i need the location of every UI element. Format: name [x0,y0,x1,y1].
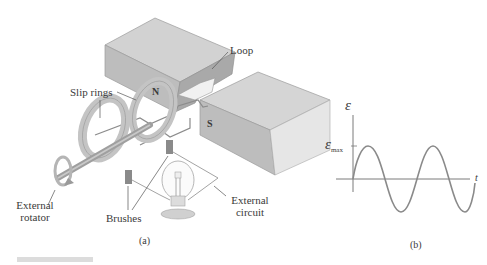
label-north-pole: N [152,86,159,98]
gray-bar [17,257,93,262]
graph-emax-label: εmax [325,138,343,156]
label-slip-rings: Slip rings [70,86,112,98]
label-external-circuit-line2: circuit [228,206,272,218]
label-external-rotator-line2: rotator [10,211,60,223]
emax-subscript: max [331,146,343,154]
label-south-pole: S [207,118,213,130]
label-external-circuit-line1: External [228,194,272,206]
brush-2 [166,140,173,154]
label-loop: Loop [230,44,253,56]
light-bulb-icon [161,161,195,219]
caption-b: (b) [410,239,422,251]
caption-a: (a) [139,235,150,247]
loop-wire [95,100,208,135]
generator-diagram [0,0,487,265]
south-magnet [200,72,330,175]
brush-1 [125,170,132,184]
graph-y-label: ε [345,99,351,111]
emf-graph [336,115,475,212]
graph-x-label: t [475,172,478,184]
label-external-rotator: External rotator [10,199,60,223]
label-brushes: Brushes [106,212,141,224]
label-external-circuit: External circuit [228,194,272,218]
label-external-rotator-line1: External [10,199,60,211]
